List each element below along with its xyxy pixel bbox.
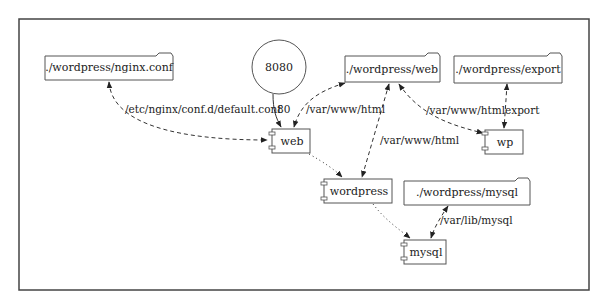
port-8080-node[interactable]: 8080 xyxy=(252,40,306,94)
component-web[interactable]: web xyxy=(269,129,310,153)
node-label: ./wordpress/export xyxy=(455,63,561,76)
component-wp[interactable]: wp xyxy=(482,130,523,154)
component-port-icon xyxy=(269,146,275,149)
component-mysql[interactable]: mysql xyxy=(401,240,446,264)
node-label: ./wordpress/web xyxy=(346,63,438,76)
node-label: wordpress xyxy=(330,185,389,198)
edge-label-web-html: /var/www/html xyxy=(306,103,386,115)
node-label: wp xyxy=(497,136,513,149)
edge-label-wp-html: /var/www/html xyxy=(426,104,506,116)
folder-wordpress-mysql[interactable]: ./wordpress/mysql xyxy=(404,178,530,205)
component-port-icon xyxy=(321,197,327,200)
edge-label-export: export xyxy=(505,104,540,116)
node-label: mysql xyxy=(410,246,443,259)
edge-label-mysql-lib: /var/lib/mysql xyxy=(440,214,513,226)
edge-label-nginx-conf: /etc/nginx/conf.d/default.conf xyxy=(125,103,282,115)
component-port-icon xyxy=(482,132,488,135)
deployment-diagram: /etc/nginx/conf.d/default.conf 80 /var/w… xyxy=(0,0,605,307)
node-label: web xyxy=(281,135,304,148)
node-label: ./wordpress/nginx.conf xyxy=(45,61,174,74)
folder-wordpress-web[interactable]: ./wordpress/web xyxy=(345,53,440,82)
folder-nginx-conf[interactable]: ./wordpress/nginx.conf xyxy=(45,53,174,80)
edge-label-wordpress-html: /var/www/html xyxy=(380,134,460,146)
node-label: ./wordpress/mysql xyxy=(416,186,519,199)
component-port-icon xyxy=(269,132,275,135)
edge-label-port-80: 80 xyxy=(277,103,290,115)
component-wordpress[interactable]: wordpress xyxy=(321,179,392,203)
component-port-icon xyxy=(401,257,407,260)
node-label: 8080 xyxy=(265,61,293,74)
component-port-icon xyxy=(482,147,488,150)
component-port-icon xyxy=(401,243,407,246)
folder-wordpress-export[interactable]: ./wordpress/export xyxy=(454,53,562,83)
component-port-icon xyxy=(321,182,327,185)
